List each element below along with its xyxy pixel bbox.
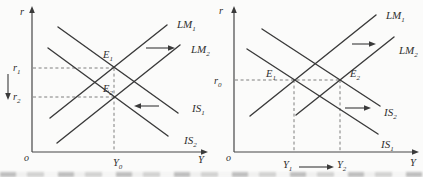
left-rate-fall-down-arrow <box>5 74 11 100</box>
left-is2-label: IS2 <box>183 134 197 149</box>
left-x-axis-label: Y <box>198 154 205 165</box>
right-lm2-label: LM2 <box>398 44 418 59</box>
page-bottom-text-smear <box>0 172 423 177</box>
left-r2-tick-label: r2 <box>13 91 21 105</box>
right-origin-label: o <box>226 152 231 163</box>
islm-figure-canvas: r o Y LM1 LM2 IS1 IS2 E1 E2 r1 r2 Y0 <box>0 0 423 177</box>
right-is2-label: IS2 <box>383 106 397 121</box>
right-y-axis-arrowhead <box>231 6 237 13</box>
right-is-shift-right-arrow <box>345 105 371 111</box>
left-is1-label: IS1 <box>191 102 205 117</box>
left-r1-tick-label: r1 <box>13 62 21 76</box>
right-e2-label: E2 <box>349 68 360 82</box>
left-y0-tick-label: Y0 <box>113 157 123 171</box>
left-lm-shift-right-arrow <box>146 45 175 51</box>
right-y2-tick-label: Y2 <box>337 159 347 173</box>
left-y-axis-arrowhead <box>29 6 35 13</box>
right-y-axis-label: r <box>219 5 224 16</box>
right-x-axis-arrowhead <box>412 149 419 155</box>
right-x-axis-label: Y <box>410 157 417 168</box>
right-lm2-curve <box>296 37 394 115</box>
right-islm-diagram: r o Y LM1 LM2 IS2 IS1 E1 E2 r0 Y1 Y2 <box>214 5 419 173</box>
left-lm1-label: LM1 <box>176 18 196 33</box>
right-y1-tick-label: Y1 <box>283 159 292 173</box>
right-is1-label: IS1 <box>380 138 394 153</box>
left-origin-label: o <box>24 152 29 163</box>
right-lm1-label: LM1 <box>385 9 405 24</box>
left-lm1-curve <box>50 25 167 118</box>
islm-figure: r o Y LM1 LM2 IS1 IS2 E1 E2 r1 r2 Y0 <box>0 0 423 177</box>
right-e1-label: E1 <box>265 68 276 82</box>
left-e2-label: E2 <box>102 83 113 97</box>
left-islm-diagram: r o Y LM1 LM2 IS1 IS2 E1 E2 r1 r2 Y0 <box>5 6 210 171</box>
right-lm-shift-right-arrow <box>352 41 376 47</box>
right-r0-tick-label: r0 <box>214 75 222 89</box>
left-lm2-label: LM2 <box>190 43 210 58</box>
left-is-shift-left-arrow <box>134 103 159 109</box>
left-lm2-curve <box>57 45 180 143</box>
left-y-axis-label: r <box>20 6 25 17</box>
right-output-rise-right-arrow <box>299 164 334 170</box>
